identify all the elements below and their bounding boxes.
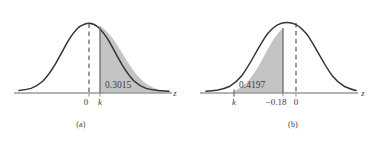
axis-label-z-b: z bbox=[360, 88, 365, 98]
axis-label-z-a: z bbox=[172, 88, 177, 98]
panel-a: 0.3015 0 k z (a) bbox=[0, 0, 186, 144]
normal-distribution-figure: 0.3015 0 k z (a) 0.4197 bbox=[0, 0, 372, 144]
tick-label-k-a: k bbox=[98, 97, 103, 107]
area-label-b: 0.4197 bbox=[239, 80, 265, 90]
tick-label-zero-b: 0 bbox=[294, 97, 299, 107]
panel-b: 0.4197 k −0.18 0 z (b) bbox=[186, 0, 372, 144]
area-label-a: 0.3015 bbox=[105, 80, 131, 90]
panel-caption-b: (b) bbox=[200, 120, 372, 129]
panel-caption-a: (a) bbox=[0, 120, 174, 129]
normal-curve-a bbox=[19, 23, 169, 91]
panel-b-plot: 0.4197 k −0.18 0 z bbox=[186, 0, 372, 120]
tick-label-zero-a: 0 bbox=[84, 97, 89, 107]
tick-label-value-b: −0.18 bbox=[266, 97, 287, 107]
panel-a-plot: 0.3015 0 k z bbox=[0, 0, 186, 120]
tick-label-k-b: k bbox=[232, 97, 237, 107]
